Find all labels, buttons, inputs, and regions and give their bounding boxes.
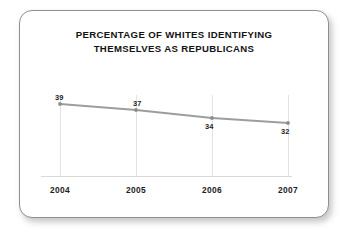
data-point-2004 [58, 102, 62, 106]
data-label-2007: 32 [281, 127, 290, 136]
data-label-2004: 39 [55, 93, 64, 102]
data-point-2007 [286, 121, 290, 125]
data-point-2006 [210, 116, 214, 120]
data-point-2005 [134, 108, 138, 112]
data-label-2005: 37 [133, 99, 142, 108]
x-tick-label-2005: 2005 [109, 185, 163, 195]
chart-screenshot: PERCENTAGE OF WHITES IDENTIFYING THEMSEL… [0, 0, 348, 240]
series-line [60, 104, 288, 123]
x-tick-label-2006: 2006 [185, 185, 239, 195]
series-line-group [0, 0, 348, 240]
x-tick-label-2004: 2004 [33, 185, 87, 195]
x-tick-label-2007: 2007 [261, 185, 315, 195]
data-label-2006: 34 [205, 122, 214, 131]
